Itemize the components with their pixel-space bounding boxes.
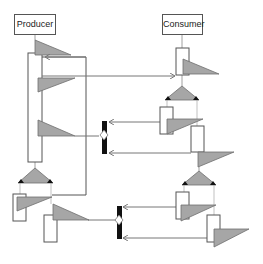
message-triangle-4 <box>183 59 219 74</box>
message-triangle-2 <box>38 78 75 92</box>
sequence-diagram <box>0 0 263 264</box>
fork-block-2 <box>13 168 89 242</box>
fork-block-1 <box>160 86 234 167</box>
fork-block-3 <box>176 171 249 247</box>
message-triangle-1 <box>35 40 71 55</box>
join-junction-2 <box>115 206 123 239</box>
producer-activation <box>28 53 42 162</box>
join-junction-1 <box>100 121 108 154</box>
message-triangle-3 <box>38 120 75 136</box>
